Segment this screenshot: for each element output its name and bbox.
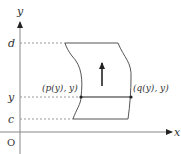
region-diagram: y x O d y c (p(y), y) (q(y), y) — [0, 0, 181, 154]
y-axis-label: y — [16, 5, 24, 18]
y-level-label: y — [7, 91, 15, 104]
x-axis-label: x — [174, 126, 181, 139]
origin-label: O — [7, 137, 15, 148]
d-label: d — [8, 37, 15, 50]
point-right — [129, 95, 132, 98]
region-outline — [65, 43, 131, 119]
right-point-label: (q(y), y) — [133, 83, 169, 93]
point-left — [79, 95, 82, 98]
left-point-label: (p(y), y) — [42, 83, 78, 93]
c-label: c — [8, 113, 14, 126]
